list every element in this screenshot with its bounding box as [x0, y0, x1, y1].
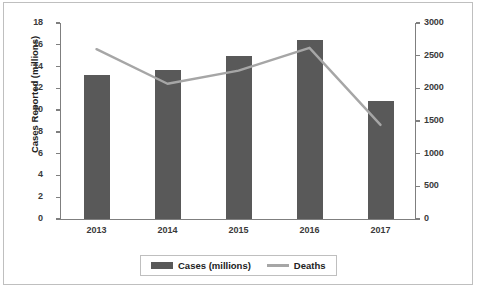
legend-item-cases: Cases (millions) [151, 260, 251, 271]
right-axis-tick-label: 500 [424, 180, 439, 190]
legend-label-cases: Cases (millions) [178, 260, 251, 271]
left-axis-tick-label: 6 [38, 148, 43, 158]
right-axis-tick [416, 88, 420, 89]
right-axis-tick-label: 1500 [424, 115, 444, 125]
x-axis-category-label: 2016 [280, 225, 340, 235]
right-axis-tick-label: 2000 [424, 82, 444, 92]
x-axis-category-label: 2013 [67, 225, 127, 235]
left-axis-tick [56, 197, 60, 198]
right-axis-tick [416, 153, 420, 154]
left-axis-tick [56, 44, 60, 45]
left-axis-tick-label: 2 [38, 191, 43, 201]
right-axis-tick-label: 2500 [424, 50, 444, 60]
left-axis-tick-label: 0 [38, 213, 43, 223]
left-axis-tick [56, 88, 60, 89]
right-axis-tick [416, 186, 420, 187]
x-axis-category-label: 2015 [209, 225, 269, 235]
left-axis-tick-label: 10 [33, 104, 43, 114]
x-axis-category-label: 2014 [138, 225, 198, 235]
chart-frame: Cases Reported (millions) Number of Deat… [3, 2, 473, 285]
legend-swatch-bar-icon [151, 262, 173, 269]
deaths-line [97, 48, 381, 125]
right-axis-tick [416, 22, 420, 23]
left-axis-tick-label: 18 [33, 17, 43, 27]
left-axis-tick-label: 8 [38, 126, 43, 136]
legend-swatch-line-icon [267, 264, 289, 266]
left-axis-tick [56, 131, 60, 132]
plot-area [61, 23, 416, 219]
chart-legend: Cases (millions) Deaths [140, 255, 337, 276]
left-axis-tick-label: 12 [33, 82, 43, 92]
left-axis-tick [56, 109, 60, 110]
right-axis-tick [416, 218, 420, 219]
left-axis-tick [56, 22, 60, 23]
left-axis-tick [56, 153, 60, 154]
left-axis-tick [56, 218, 60, 219]
left-axis-tick-label: 4 [38, 169, 43, 179]
right-axis-tick [416, 55, 420, 56]
right-axis-tick-label: 0 [424, 213, 429, 223]
legend-item-deaths: Deaths [267, 260, 326, 271]
right-axis-tick [416, 120, 420, 121]
left-axis-tick-label: 14 [33, 61, 43, 71]
x-axis-category-label: 2017 [351, 225, 411, 235]
right-axis-tick-label: 1000 [424, 148, 444, 158]
left-axis-tick [56, 66, 60, 67]
chart-container: Cases Reported (millions) Number of Deat… [0, 0, 477, 288]
left-axis-tick-label: 16 [33, 39, 43, 49]
right-axis-tick-label: 3000 [424, 17, 444, 27]
deaths-line-layer [61, 23, 416, 219]
left-axis-tick [56, 175, 60, 176]
legend-label-deaths: Deaths [294, 260, 326, 271]
